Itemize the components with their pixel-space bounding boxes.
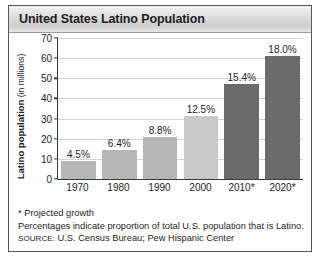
y-axis-title-main: Latino population xyxy=(16,99,27,179)
x-axis-tick-label: 1970 xyxy=(60,182,95,198)
y-axis-tick-label: 0 xyxy=(46,174,52,185)
footnote-source: SOURCE: U.S. Census Bureau; Pew Hispanic… xyxy=(18,232,303,246)
x-axis-tick-label: 1990 xyxy=(142,182,177,198)
x-axis-tick-label: 2020* xyxy=(265,182,300,198)
bar-group: 12.5% xyxy=(184,38,219,179)
bar xyxy=(61,161,96,179)
bar-value-label: 18.0% xyxy=(265,44,300,55)
bar xyxy=(143,137,178,179)
chart-title-bar: United States Latino Population xyxy=(9,6,311,33)
bar-group: 6.4% xyxy=(102,38,137,179)
y-axis-title-unit: (in millions) xyxy=(17,53,27,99)
footnote-projected: * Projected growth xyxy=(18,207,303,220)
x-axis-tick-label: 1980 xyxy=(101,182,136,198)
y-axis-tick-label: 30 xyxy=(41,113,52,124)
bar-value-label: 15.4% xyxy=(224,72,259,83)
bar-value-label: 8.8% xyxy=(143,125,178,136)
y-axis-tick-label: 50 xyxy=(41,73,52,84)
page-title: United States Latino Population xyxy=(9,12,205,26)
bar-series: 4.5%6.4%8.8%12.5%15.4%18.0% xyxy=(58,38,303,179)
x-axis-tick-label: 2010* xyxy=(224,182,259,198)
chart-figure: United States Latino Population Latino p… xyxy=(8,5,312,252)
footnote-source-key: SOURCE: xyxy=(18,234,55,243)
bar-value-label: 6.4% xyxy=(102,138,137,149)
x-axis-ticks: 19701980199020002010*2020* xyxy=(57,182,303,198)
footnotes: * Projected growth Percentages indicate … xyxy=(18,207,303,246)
bar xyxy=(184,116,219,179)
x-axis-tick-label: 2000 xyxy=(183,182,218,198)
bar-group: 4.5% xyxy=(61,38,96,179)
plot-area: 010203040506070 4.5%6.4%8.8%12.5%15.4%18… xyxy=(57,38,303,180)
y-axis-tick-label: 60 xyxy=(41,53,52,64)
y-axis-tick-label: 40 xyxy=(41,93,52,104)
footnote-percent-note: Percentages indicate proportion of total… xyxy=(18,220,303,233)
y-axis-title: Latino population (in millions) xyxy=(12,33,30,199)
bar xyxy=(224,84,259,179)
y-axis-tick-label: 70 xyxy=(41,33,52,44)
y-axis-tick-label: 20 xyxy=(41,133,52,144)
bar-group: 18.0% xyxy=(265,38,300,179)
bar xyxy=(265,56,300,179)
footnote-source-value: U.S. Census Bureau; Pew Hispanic Center xyxy=(55,233,234,243)
y-axis-tick-label: 10 xyxy=(41,153,52,164)
bar-value-label: 4.5% xyxy=(61,149,96,160)
chart-plot-region: Latino population (in millions) 01020304… xyxy=(9,33,311,205)
bar-group: 15.4% xyxy=(224,38,259,179)
bar-group: 8.8% xyxy=(143,38,178,179)
bar-value-label: 12.5% xyxy=(184,104,219,115)
bar xyxy=(102,150,137,179)
